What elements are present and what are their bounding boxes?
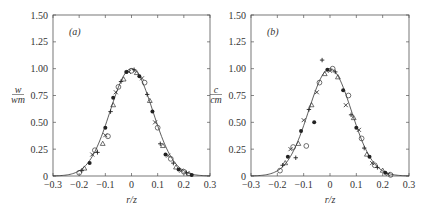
- y-tick-label: 0.25: [31, 144, 49, 155]
- y-tick-label: 1.00: [229, 63, 247, 74]
- data-point-filled: [286, 155, 290, 159]
- panel-label: (b): [267, 26, 279, 38]
- data-point-triangle: [309, 103, 314, 107]
- data-point-triangle: [336, 75, 341, 79]
- data-point-filled: [88, 161, 92, 165]
- y-tick-label: 1.50: [229, 10, 247, 21]
- plot-frame: [53, 15, 210, 176]
- x-tick-label: 0: [328, 179, 333, 190]
- panel-label: (a): [69, 26, 81, 38]
- y-tick-label: 1.00: [31, 63, 49, 74]
- y-tick-label: 1.25: [229, 36, 247, 47]
- y-tick-label: 1.50: [31, 10, 49, 21]
- data-point-plus: [95, 150, 99, 154]
- data-point-plus: [280, 163, 284, 167]
- x-tick-label: 0.2: [376, 179, 389, 190]
- panel-b: −0.3−0.2−0.100.10.20.300.250.500.751.001…: [210, 10, 415, 206]
- data-point-filled: [190, 173, 194, 177]
- data-point-filled: [150, 110, 154, 114]
- data-point-plus: [294, 156, 298, 160]
- data-point-x: [315, 90, 319, 94]
- x-tick-label: 0.3: [204, 179, 217, 190]
- y-tick-label: 0.25: [229, 144, 247, 155]
- gaussian-fit-curve: [53, 69, 210, 176]
- data-point-plus: [307, 107, 311, 111]
- data-point-plus: [171, 161, 175, 165]
- x-tick-label: −0.1: [295, 179, 313, 190]
- data-point-plus: [375, 165, 379, 169]
- x-axis-label: r/z: [126, 194, 137, 205]
- x-tick-label: −0.2: [70, 179, 88, 190]
- data-point-filled: [111, 96, 115, 100]
- panel-a: −0.3−0.2−0.100.10.20.300.250.500.751.001…: [11, 10, 216, 206]
- data-point-x: [344, 103, 348, 107]
- data-point-triangle: [100, 141, 105, 145]
- y-axis-label-denominator: wm: [11, 94, 25, 105]
- x-tick-label: 0.3: [403, 179, 416, 190]
- x-tick-label: 0: [129, 179, 134, 190]
- figure: −0.3−0.2−0.100.10.20.300.250.500.751.001…: [0, 0, 433, 213]
- y-tick-label: 0.75: [31, 90, 49, 101]
- data-point-triangle: [111, 103, 116, 107]
- data-point-filled: [103, 126, 107, 130]
- data-point-plus: [320, 58, 324, 62]
- y-tick-label: 0: [241, 171, 246, 182]
- data-point-filled: [312, 120, 316, 124]
- y-tick-label: 0.75: [229, 90, 247, 101]
- x-tick-label: −0.2: [268, 179, 286, 190]
- data-point-plus: [145, 92, 149, 96]
- data-point-plus: [119, 79, 123, 83]
- gaussian-fit-curve: [251, 69, 409, 176]
- x-tick-label: 0.1: [350, 179, 363, 190]
- x-tick-label: 0.1: [151, 179, 164, 190]
- data-point-circle: [346, 93, 351, 98]
- y-tick-label: 0.50: [229, 117, 247, 128]
- data-point-plus: [80, 168, 84, 172]
- plot-frame: [251, 15, 409, 176]
- data-point-circle: [304, 144, 309, 149]
- data-point-circle: [291, 145, 296, 150]
- y-tick-label: 1.25: [31, 36, 49, 47]
- data-point-plus: [108, 109, 112, 113]
- y-axis-label-denominator: cm: [210, 94, 222, 105]
- x-tick-label: 0.2: [178, 179, 191, 190]
- x-axis-label: r/z: [325, 194, 336, 205]
- data-point-x: [302, 118, 306, 122]
- data-point-filled: [299, 129, 303, 133]
- x-tick-label: −0.1: [96, 179, 114, 190]
- data-point-filled: [341, 88, 345, 92]
- data-point-filled: [368, 155, 372, 159]
- y-tick-label: 0: [43, 171, 48, 182]
- y-tick-label: 0.50: [31, 117, 49, 128]
